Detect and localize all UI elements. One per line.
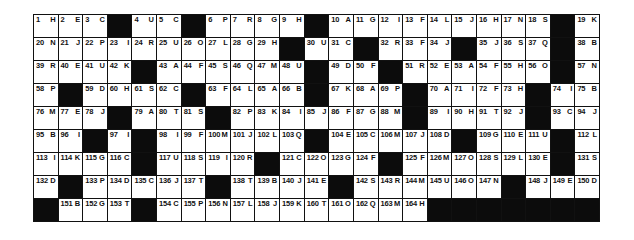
- grid-cell[interactable]: 45S: [206, 61, 230, 83]
- grid-cell[interactable]: 74I: [551, 84, 575, 106]
- grid-cell[interactable]: 143R: [379, 176, 403, 198]
- grid-cell[interactable]: 89I: [428, 107, 452, 129]
- grid-cell[interactable]: 145U: [428, 176, 452, 198]
- grid-cell[interactable]: 54F: [477, 61, 501, 83]
- grid-cell[interactable]: 117U: [157, 153, 181, 175]
- grid-cell[interactable]: 61S: [132, 84, 156, 106]
- grid-cell[interactable]: 18S: [526, 15, 550, 37]
- grid-cell[interactable]: 33F: [403, 38, 427, 60]
- grid-cell[interactable]: 116C: [108, 153, 132, 175]
- grid-cell[interactable]: 28G: [231, 38, 255, 60]
- grid-cell[interactable]: 136J: [157, 176, 181, 198]
- grid-cell[interactable]: 81S: [182, 107, 206, 129]
- grid-cell[interactable]: 98I: [157, 130, 181, 152]
- grid-cell[interactable]: 162Q: [354, 199, 378, 221]
- grid-cell[interactable]: 59D: [83, 84, 107, 106]
- grid-cell[interactable]: 8G: [255, 15, 279, 37]
- grid-cell[interactable]: 65A: [255, 84, 279, 106]
- grid-cell[interactable]: 46Q: [231, 61, 255, 83]
- grid-cell[interactable]: 43A: [157, 61, 181, 83]
- grid-cell[interactable]: 58P: [34, 84, 58, 106]
- grid-cell[interactable]: 34J: [428, 38, 452, 60]
- grid-cell[interactable]: 64L: [231, 84, 255, 106]
- grid-cell[interactable]: 115G: [83, 153, 107, 175]
- grid-cell[interactable]: 114K: [59, 153, 83, 175]
- grid-cell[interactable]: 118S: [182, 153, 206, 175]
- grid-cell[interactable]: 148J: [526, 176, 550, 198]
- grid-cell[interactable]: 93C: [551, 107, 575, 129]
- grid-cell[interactable]: 142S: [354, 176, 378, 198]
- grid-cell[interactable]: 106M: [379, 130, 403, 152]
- grid-cell[interactable]: 38B: [575, 38, 599, 60]
- grid-cell[interactable]: 164H: [403, 199, 427, 221]
- grid-cell[interactable]: 52E: [428, 61, 452, 83]
- grid-cell[interactable]: 75B: [575, 84, 599, 106]
- grid-cell[interactable]: 100M: [206, 130, 230, 152]
- grid-cell[interactable]: 156N: [206, 199, 230, 221]
- grid-cell[interactable]: 130E: [526, 153, 550, 175]
- grid-cell[interactable]: 76M: [34, 107, 58, 129]
- grid-cell[interactable]: 67K: [329, 84, 353, 106]
- grid-cell[interactable]: 144M: [403, 176, 427, 198]
- grid-cell[interactable]: 57N: [575, 61, 599, 83]
- grid-cell[interactable]: 30U: [305, 38, 329, 60]
- grid-cell[interactable]: 112L: [575, 130, 599, 152]
- grid-cell[interactable]: 125F: [403, 153, 427, 175]
- grid-cell[interactable]: 160T: [305, 199, 329, 221]
- grid-cell[interactable]: 91T: [477, 107, 501, 129]
- grid-cell[interactable]: 39R: [34, 61, 58, 83]
- grid-cell[interactable]: 105C: [354, 130, 378, 152]
- grid-cell[interactable]: 53A: [452, 61, 476, 83]
- grid-cell[interactable]: 66B: [280, 84, 304, 106]
- grid-cell[interactable]: 63F: [206, 84, 230, 106]
- grid-cell[interactable]: 84I: [280, 107, 304, 129]
- grid-cell[interactable]: 135C: [132, 176, 156, 198]
- grid-cell[interactable]: 20N: [34, 38, 58, 60]
- grid-cell[interactable]: 158J: [255, 199, 279, 221]
- grid-cell[interactable]: 138T: [231, 176, 255, 198]
- grid-cell[interactable]: 108D: [428, 130, 452, 152]
- grid-cell[interactable]: 149E: [551, 176, 575, 198]
- grid-cell[interactable]: 35J: [477, 38, 501, 60]
- grid-cell[interactable]: 17N: [502, 15, 526, 37]
- grid-cell[interactable]: 9H: [280, 15, 304, 37]
- grid-cell[interactable]: 140J: [280, 176, 304, 198]
- grid-cell[interactable]: 5C: [157, 15, 181, 37]
- grid-cell[interactable]: 92J: [502, 107, 526, 129]
- grid-cell[interactable]: 73H: [502, 84, 526, 106]
- grid-cell[interactable]: 137T: [182, 176, 206, 198]
- grid-cell[interactable]: 7R: [231, 15, 255, 37]
- grid-cell[interactable]: 139B: [255, 176, 279, 198]
- grid-cell[interactable]: 14L: [428, 15, 452, 37]
- grid-cell[interactable]: 36S: [502, 38, 526, 60]
- grid-cell[interactable]: 90H: [452, 107, 476, 129]
- grid-cell[interactable]: 26O: [182, 38, 206, 60]
- grid-cell[interactable]: 153T: [108, 199, 132, 221]
- grid-cell[interactable]: 113I: [34, 153, 58, 175]
- grid-cell[interactable]: 80T: [157, 107, 181, 129]
- grid-cell[interactable]: 71I: [452, 84, 476, 106]
- grid-cell[interactable]: 141E: [305, 176, 329, 198]
- grid-cell[interactable]: 102L: [255, 130, 279, 152]
- grid-cell[interactable]: 154C: [157, 199, 181, 221]
- grid-cell[interactable]: 12I: [379, 15, 403, 37]
- grid-cell[interactable]: 101J: [231, 130, 255, 152]
- grid-cell[interactable]: 121C: [280, 153, 304, 175]
- grid-cell[interactable]: 127O: [452, 153, 476, 175]
- grid-cell[interactable]: 1H: [34, 15, 58, 37]
- grid-cell[interactable]: 146O: [452, 176, 476, 198]
- grid-cell[interactable]: 11G: [354, 15, 378, 37]
- grid-cell[interactable]: 122O: [305, 153, 329, 175]
- grid-cell[interactable]: 62C: [157, 84, 181, 106]
- grid-cell[interactable]: 132D: [34, 176, 58, 198]
- grid-cell[interactable]: 152G: [83, 199, 107, 221]
- grid-cell[interactable]: 88M: [379, 107, 403, 129]
- grid-cell[interactable]: 79A: [132, 107, 156, 129]
- grid-cell[interactable]: 123G: [329, 153, 353, 175]
- grid-cell[interactable]: 55H: [502, 61, 526, 83]
- grid-cell[interactable]: 151B: [59, 199, 83, 221]
- grid-cell[interactable]: 78J: [83, 107, 107, 129]
- grid-cell[interactable]: 72F: [477, 84, 501, 106]
- grid-cell[interactable]: 109G: [477, 130, 501, 152]
- grid-cell[interactable]: 68A: [354, 84, 378, 106]
